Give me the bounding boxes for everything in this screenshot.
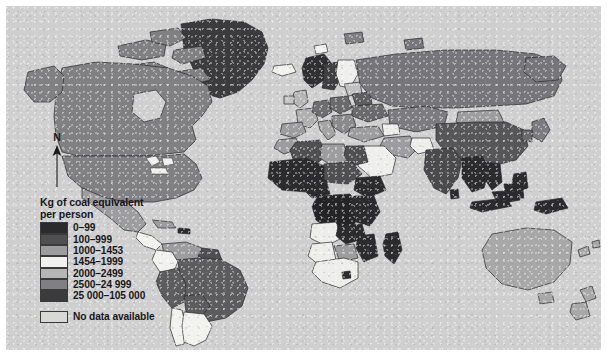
region-ukraine	[352, 104, 388, 122]
region-turkey	[348, 126, 384, 142]
region-papua-new-guinea	[534, 198, 568, 214]
legend-class-list: 0–99 100–999 1000–1453 1454–1999 2000–24…	[40, 222, 155, 301]
region-fiji	[592, 240, 600, 248]
legend-swatch	[40, 245, 68, 256]
region-korea	[522, 130, 532, 142]
region-svalbard	[344, 32, 364, 44]
legend-row: 25 000–105 000	[40, 290, 155, 301]
legend-swatch-no-data	[40, 311, 68, 324]
region-tasmania	[538, 292, 554, 304]
legend-swatch	[40, 256, 68, 267]
great-lakes-3	[150, 168, 168, 174]
north-arrow-icon	[46, 143, 68, 189]
north-arrow-label: N	[46, 132, 68, 143]
region-ethiopia	[354, 176, 386, 198]
world-map-figure: N Kg of coal equivalent per person 0–99 …	[0, 0, 607, 356]
region-cuba	[152, 220, 176, 228]
region-madagascar	[383, 232, 402, 264]
map-legend: Kg of coal equivalent per person 0–99 10…	[40, 197, 155, 323]
legend-label: 1454–1999	[73, 256, 123, 267]
region-south-africa	[312, 258, 358, 288]
region-new-caledonia	[578, 246, 590, 257]
region-vietnam	[484, 162, 502, 190]
legend-row: 2000–2499	[40, 268, 155, 279]
legend-label: 2500–24 999	[73, 279, 131, 290]
region-new-zealand-s	[570, 302, 590, 320]
legend-row: 100–999	[40, 234, 155, 245]
legend-row: 1000–1453	[40, 245, 155, 256]
region-united-kingdom	[292, 90, 308, 108]
region-spain	[280, 122, 306, 138]
north-arrow: N	[46, 132, 68, 190]
region-japan	[532, 118, 550, 142]
legend-row: 0–99	[40, 222, 155, 233]
legend-label: 0–99	[73, 222, 95, 233]
region-borneo	[504, 184, 524, 198]
region-iceland-2	[314, 44, 328, 54]
region-novaya-zemlya	[404, 38, 424, 50]
region-sri-lanka	[450, 189, 459, 199]
legend-row-no-data: No data available	[40, 311, 155, 324]
legend-label: 25 000–105 000	[73, 290, 145, 301]
legend-swatch	[40, 222, 68, 233]
legend-swatch	[40, 279, 68, 290]
legend-swatch	[40, 290, 68, 301]
region-iceland	[272, 64, 296, 76]
region-india	[424, 148, 462, 194]
region-poland	[330, 96, 352, 114]
legend-label: 1000–1453	[73, 245, 123, 256]
legend-label: 100–999	[73, 234, 112, 245]
legend-swatch	[40, 234, 68, 245]
region-caucasus	[382, 124, 400, 136]
legend-label: 2000–2499	[73, 268, 123, 279]
legend-row: 2500–24 999	[40, 279, 155, 290]
region-ireland	[284, 96, 294, 104]
legend-swatch	[40, 268, 68, 279]
region-australia	[482, 228, 572, 290]
legend-label-no-data: No data available	[73, 311, 155, 322]
region-hispaniola	[178, 228, 190, 234]
region-lesotho	[342, 271, 351, 279]
map-plate: N Kg of coal equivalent per person 0–99 …	[6, 6, 601, 350]
region-mozambique	[356, 234, 378, 262]
legend-title: Kg of coal equivalent per person	[40, 197, 155, 220]
region-new-zealand-n	[580, 286, 596, 302]
legend-row: 1454–1999	[40, 256, 155, 267]
